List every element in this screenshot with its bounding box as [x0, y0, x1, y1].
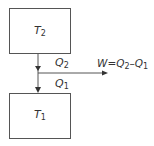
arrow-head-q2 [35, 66, 41, 71]
arrow-head-work [102, 71, 108, 76]
cold-reservoir-box: T1 [9, 93, 71, 139]
hot-reservoir-box: T2 [9, 8, 71, 54]
heat-in-label: Q2 [55, 57, 69, 70]
cold-reservoir-label: T1 [34, 109, 46, 122]
hot-reservoir-label: T2 [34, 25, 46, 38]
work-label: W=Q2–Q1 [97, 58, 148, 71]
heat-out-label: Q1 [55, 78, 69, 91]
